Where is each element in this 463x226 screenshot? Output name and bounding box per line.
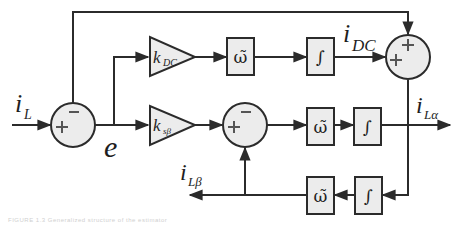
svg-text:i: i (15, 89, 22, 118)
svg-text:i: i (180, 159, 187, 185)
omega-block-top: ω̃ (227, 38, 254, 75)
integrator-block-top: ∫ (307, 38, 334, 75)
svg-text:DC: DC (162, 57, 177, 68)
svg-text:i: i (343, 19, 350, 48)
label-input-current: i L (15, 89, 32, 122)
alpha-feedback-wire (383, 80, 408, 195)
svg-text:DC: DC (351, 36, 376, 55)
omega-block-mid: ω̃ (307, 108, 334, 145)
output-summer (386, 35, 430, 79)
label-beta-current: i Lβ (180, 159, 202, 189)
gain-sbeta-block: k sβ (150, 106, 195, 145)
svg-text:L: L (23, 107, 32, 122)
integrator-block-mid: ∫ (354, 108, 381, 145)
svg-text:k: k (153, 48, 161, 67)
omega-block-bottom: ω̃ (307, 177, 334, 214)
svg-text:k: k (153, 116, 161, 135)
svg-text:∫: ∫ (316, 47, 325, 67)
svg-text:sβ: sβ (163, 126, 172, 136)
mid-summer (223, 103, 267, 147)
integrator-block-bottom: ∫ (355, 177, 382, 214)
label-alpha-current: i Lα (416, 92, 439, 122)
gain-dc-block: k DC (150, 37, 195, 76)
svg-text:i: i (416, 92, 423, 118)
label-error: e (104, 130, 117, 163)
figure-caption: FIGURE 1.3 Generalized structure of the … (8, 217, 167, 223)
svg-text:Lα: Lα (423, 107, 439, 122)
svg-text:ω̃: ω̃ (314, 186, 328, 206)
svg-text:ω̃: ω̃ (234, 47, 248, 67)
svg-text:ω̃: ω̃ (314, 117, 328, 137)
svg-text:∫: ∫ (363, 117, 372, 137)
svg-text:Lβ: Lβ (187, 174, 202, 189)
input-summer (51, 103, 95, 147)
svg-text:∫: ∫ (364, 186, 373, 206)
label-dc-current: i DC (343, 19, 376, 55)
block-diagram: k DC k sβ ω̃ ω̃ ω̃ ∫ ∫ ∫ i L e i DC (0, 0, 463, 226)
branch-dc-wire (114, 57, 148, 125)
